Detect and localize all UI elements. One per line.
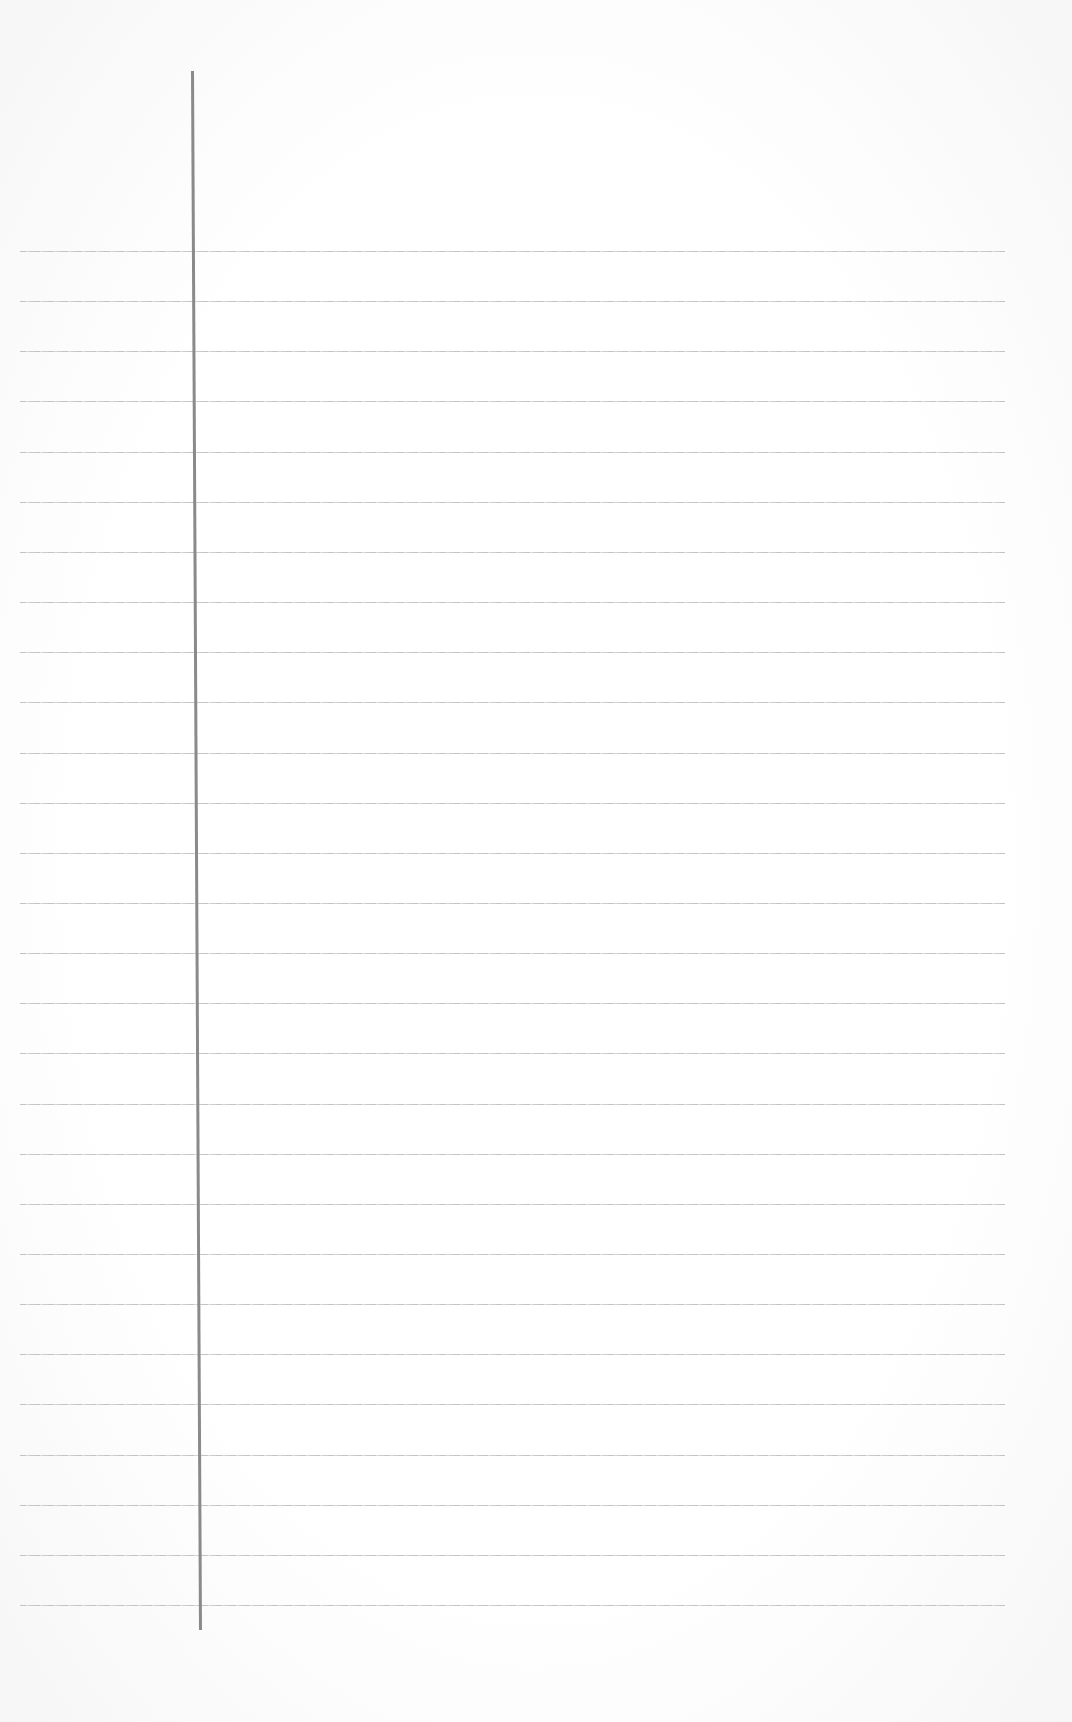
- ruled-line: [20, 351, 1005, 352]
- ruled-line: [20, 1605, 1005, 1606]
- ruled-line: [20, 1154, 1005, 1155]
- ruled-line: [20, 1455, 1005, 1456]
- ruled-line: [20, 1404, 1005, 1405]
- ruled-line: [20, 401, 1005, 402]
- ruled-line: [20, 1104, 1005, 1105]
- margin-line: [191, 71, 202, 1630]
- ruled-line: [20, 301, 1005, 302]
- ruled-line: [20, 552, 1005, 553]
- ruled-line: [20, 753, 1005, 754]
- ruled-line: [20, 803, 1005, 804]
- ruled-line: [20, 1053, 1005, 1054]
- ruled-line: [20, 602, 1005, 603]
- ruled-line: [20, 1505, 1005, 1506]
- ruled-line: [20, 452, 1005, 453]
- ruled-line: [20, 251, 1005, 252]
- ruled-line: [20, 1254, 1005, 1255]
- notebook-page: [0, 0, 1072, 1722]
- ruled-line: [20, 1354, 1005, 1355]
- ruled-line: [20, 853, 1005, 854]
- ruled-line: [20, 1555, 1005, 1556]
- ruled-line: [20, 502, 1005, 503]
- ruled-line: [20, 652, 1005, 653]
- ruled-line: [20, 1204, 1005, 1205]
- ruled-line: [20, 903, 1005, 904]
- ruled-line: [20, 702, 1005, 703]
- ruled-line: [20, 1003, 1005, 1004]
- ruled-line: [20, 953, 1005, 954]
- ruled-line: [20, 1304, 1005, 1305]
